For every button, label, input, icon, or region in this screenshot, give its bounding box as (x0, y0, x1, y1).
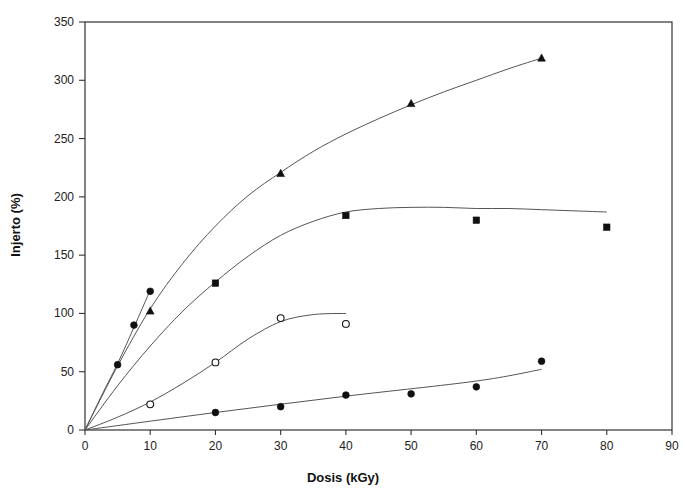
y-tick-label: 50 (61, 365, 75, 379)
data-point-marker (342, 392, 349, 399)
chart-figure: 0102030405060708090 05010015020025030035… (0, 0, 686, 492)
data-point-marker (131, 322, 138, 329)
x-tick-label: 30 (274, 439, 288, 453)
y-tick-label: 200 (54, 190, 74, 204)
data-point-marker (147, 401, 154, 408)
y-tick-label: 300 (54, 73, 74, 87)
data-point-marker (473, 217, 479, 223)
data-point-marker (147, 288, 154, 295)
data-point-marker (473, 383, 480, 390)
data-point-marker (277, 315, 284, 322)
x-axis-ticks: 0102030405060708090 (82, 430, 679, 453)
y-tick-label: 250 (54, 132, 74, 146)
y-tick-label: 100 (54, 306, 74, 320)
plot-frame (85, 22, 672, 430)
data-point-marker (146, 307, 154, 314)
data-point-marker (343, 212, 349, 218)
x-tick-label: 40 (339, 439, 353, 453)
data-point-marker (342, 321, 349, 328)
data-point-marker (538, 54, 546, 61)
injerto-vs-dosis-plot: 0102030405060708090 05010015020025030035… (0, 0, 686, 492)
x-tick-label: 70 (535, 439, 549, 453)
x-axis-label: Dosis (kGy) (307, 470, 379, 485)
data-point-marker (212, 359, 219, 366)
x-tick-label: 0 (82, 439, 89, 453)
y-axis-ticks: 050100150200250300350 (54, 15, 85, 437)
series-fit-curve (85, 369, 542, 430)
x-tick-label: 60 (470, 439, 484, 453)
y-axis-label: Injerto (%) (8, 193, 23, 257)
data-point-marker (604, 224, 610, 230)
data-point-marker (114, 361, 121, 368)
data-point-marker (277, 403, 284, 410)
data-point-marker (407, 99, 415, 106)
data-point-marker (212, 409, 219, 416)
y-tick-label: 0 (67, 423, 74, 437)
data-point-marker (212, 280, 218, 286)
y-tick-label: 350 (54, 15, 74, 29)
x-tick-label: 80 (600, 439, 614, 453)
x-tick-label: 90 (665, 439, 679, 453)
data-point-marker (538, 358, 545, 365)
series-fit-curve (85, 58, 542, 430)
x-tick-label: 50 (404, 439, 418, 453)
x-tick-label: 20 (209, 439, 223, 453)
fit-curves (85, 58, 607, 430)
x-tick-label: 10 (144, 439, 158, 453)
data-point-marker (408, 390, 415, 397)
y-tick-label: 150 (54, 248, 74, 262)
data-markers (114, 54, 610, 416)
series-fit-curve (85, 290, 150, 430)
